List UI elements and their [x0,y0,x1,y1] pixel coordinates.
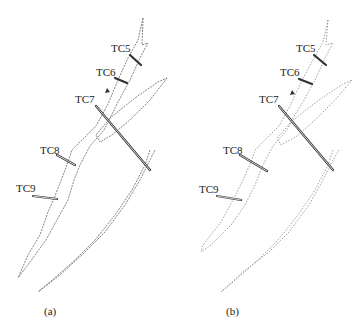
label-tc5: TC5 [111,43,131,54]
caption-b: (b) [226,306,239,317]
label-tc5: TC5 [296,43,316,54]
crack-outline-drawing-b [181,0,362,331]
caption-a: (a) [44,306,56,317]
label-tc8: TC8 [40,145,60,156]
crack-outline-drawing-a [0,0,181,331]
arrow-marker-icon [105,88,110,93]
panel-b: TC5 TC6 TC7 TC8 TC9 (b) [181,0,362,331]
label-tc6: TC6 [280,67,300,78]
label-tc9: TC9 [199,184,219,195]
label-tc9: TC9 [16,183,36,194]
arrow-marker-icon [290,90,295,95]
label-tc6: TC6 [96,67,116,78]
label-tc8: TC8 [223,145,243,156]
label-tc7: TC7 [259,94,279,105]
label-tc7: TC7 [75,94,95,105]
panel-a: TC5 TC6 TC7 TC8 TC9 (a) [0,0,181,331]
